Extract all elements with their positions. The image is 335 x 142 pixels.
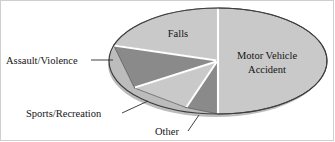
pie-chart-canvas: Falls Motor Vehicle Accident Assault/Vio… <box>0 0 335 142</box>
leader-line-other <box>188 115 199 131</box>
pie-chart-figure: Falls Motor Vehicle Accident Assault/Vio… <box>0 0 335 142</box>
callout-label-assault-violence: Assault/Violence <box>6 55 78 66</box>
slice-label-motor-vehicle-accident-line1: Motor Vehicle <box>237 50 298 61</box>
pie-slice-motor-vehicle-accident[interactable] <box>218 8 327 114</box>
callout-label-sports-recreation: Sports/Recreation <box>26 108 102 119</box>
slice-label-motor-vehicle-accident-line2: Accident <box>248 64 286 75</box>
callout-label-other: Other <box>155 126 179 137</box>
leader-line-sports-recreation <box>122 101 148 113</box>
slice-label-falls: Falls <box>168 28 188 39</box>
